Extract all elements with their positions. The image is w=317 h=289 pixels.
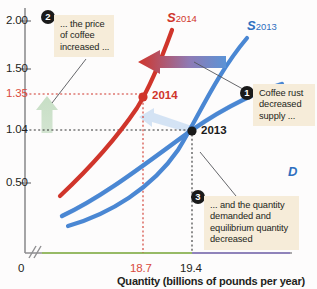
annotation-3-line-3: equilibrium quantity: [210, 223, 294, 234]
annotation-callout-3: ... and the quantity demanded and equili…: [204, 196, 299, 250]
supply-2013-label: S2013: [247, 18, 277, 33]
supply-2013-label-main: S: [247, 18, 256, 33]
x-tick-18-7: 18.7: [130, 262, 152, 274]
annotation-1-line-2: decreased: [259, 99, 310, 110]
equilibrium-label-2014: 2014: [152, 89, 178, 101]
x-tick-19-4: 19.4: [180, 262, 202, 274]
x-tick-0: 0: [18, 262, 24, 274]
annotation-callout-2: ... the price of coffee increased ...: [54, 15, 114, 57]
supply-2014-label: S2014: [167, 10, 197, 25]
annotation-badge-2: 2: [41, 10, 55, 24]
annotation-callout-1: Coffee rust decreased supply ...: [253, 84, 315, 126]
y-tick-2-00: 2.00: [6, 14, 28, 26]
equilibrium-point-2014: [138, 92, 147, 101]
equilibrium-label-2013: 2013: [201, 124, 227, 136]
supply-2014-label-sub: 2014: [176, 13, 197, 24]
y-tick-1-50: 1.50: [6, 62, 28, 74]
annotation-badge-3: 3: [191, 190, 205, 204]
supply-2013-label-sub: 2013: [256, 21, 277, 32]
annotation-2-line-3: increased ...: [60, 42, 109, 53]
demand-label: D: [288, 164, 297, 179]
equilibrium-point-2013: [187, 126, 196, 135]
chart-figure: 2.00 1.50 1.35 1.04 0.50 0 18.7 19.4 Qua…: [0, 0, 317, 289]
annotation-badge-1: 1: [240, 86, 254, 100]
annotation-2-line-2: of coffee: [60, 30, 109, 41]
annotation-1-line-3: supply ...: [259, 111, 310, 122]
annotation-3-line-4: decreased: [210, 234, 294, 245]
annotation-3-line-2: demanded and: [210, 211, 294, 222]
supply-2014-label-main: S: [167, 10, 176, 25]
y-tick-1-04: 1.04: [6, 123, 28, 135]
x-axis-title: Quantity (billions of pounds per year): [117, 275, 305, 287]
annotation-2-line-1: ... the price: [60, 19, 109, 30]
annotation-3-line-1: ... and the quantity: [210, 200, 294, 211]
annotation-1-line-1: Coffee rust: [259, 88, 310, 99]
y-tick-1-35: 1.35: [6, 87, 28, 99]
y-tick-0-50: 0.50: [6, 176, 28, 188]
